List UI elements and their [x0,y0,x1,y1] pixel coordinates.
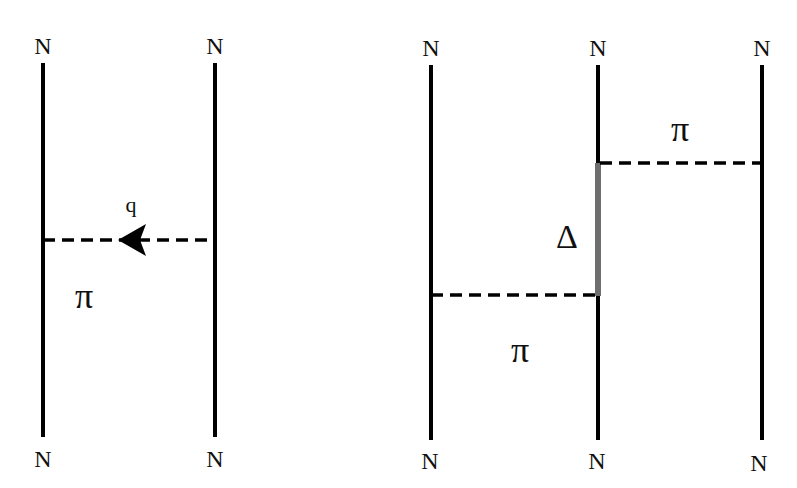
nucleon-label-top-2: N [589,35,606,61]
two-pion-delta-diagram: N N N N N N π π Δ [421,35,770,476]
pion-label: π [75,276,93,316]
delta-label: Δ [556,218,578,255]
momentum-label: q [126,192,137,217]
nucleon-label-top-1: N [422,35,439,61]
nucleon-label-bottom-2: N [588,448,605,474]
nucleon-label-top-2: N [206,33,223,59]
nucleon-label-bottom-2: N [206,446,223,472]
nucleon-label-bottom-3: N [750,450,767,476]
pion-label-lower: π [511,330,529,370]
nucleon-label-bottom-1: N [421,448,438,474]
feynman-diagrams: N N N N q π N N N N N N π π Δ [0,0,797,488]
nucleon-label-top-3: N [753,35,770,61]
nucleon-label-top-1: N [34,33,51,59]
nucleon-label-bottom-1: N [34,446,51,472]
one-pion-exchange-diagram: N N N N q π [34,33,223,472]
pion-label-upper: π [671,109,689,149]
